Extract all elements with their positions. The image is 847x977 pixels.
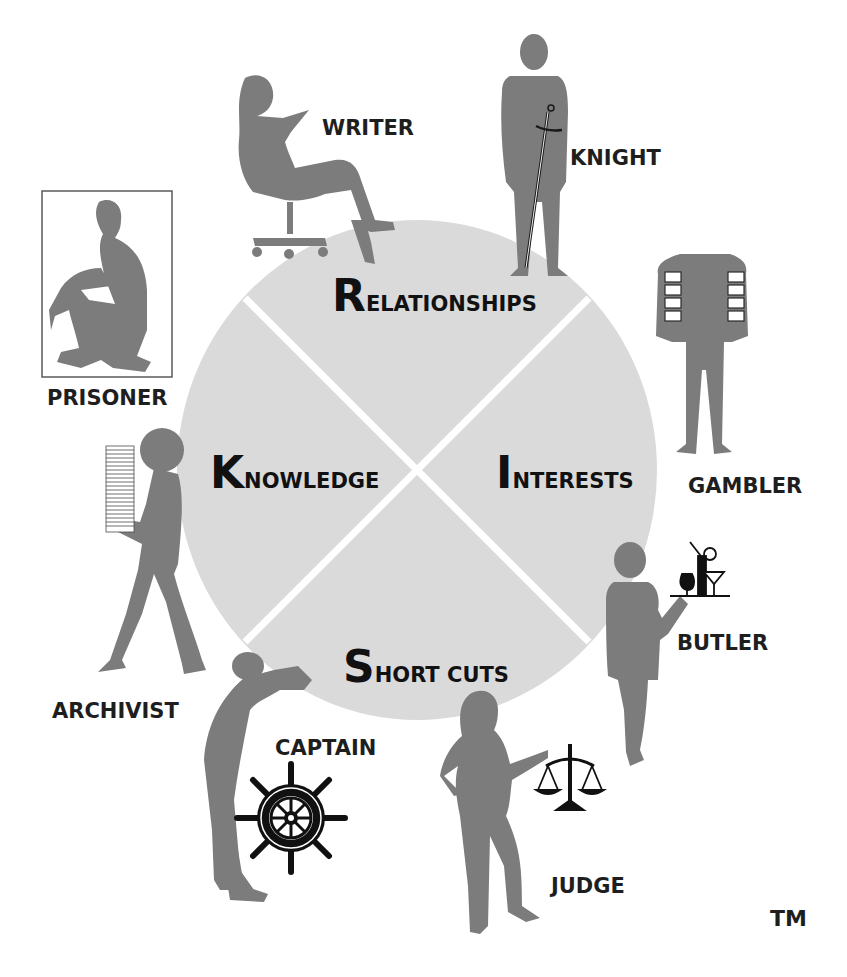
quadrant-knowledge: KNOWLEDGE: [210, 451, 379, 495]
trademark-mark: TM: [770, 908, 807, 930]
figure-label-archivist: ARCHIVIST: [52, 701, 179, 722]
gambler-silhouette-icon: [650, 250, 760, 460]
figure-label-judge: JUDGE: [551, 876, 625, 897]
ship-wheel-icon: [237, 764, 345, 872]
archivist-silhouette-icon: [82, 424, 222, 684]
figure-label-writer: WRITER: [322, 118, 414, 139]
figure-label-captain: CAPTAIN: [275, 738, 376, 759]
quadrant-relationships: RELATIONSHIPS: [332, 274, 537, 318]
captain-silhouette-icon: [204, 650, 364, 910]
diagram-canvas: RELATIONSHIPS KNOWLEDGE INTERESTS SHORT …: [0, 0, 847, 977]
figure-label-gambler: GAMBLER: [688, 476, 802, 497]
quadrant-short-cuts: SHORT CUTS: [343, 645, 509, 689]
figure-label-prisoner: PRISONER: [47, 388, 167, 409]
writer-silhouette-icon: [225, 70, 405, 270]
figure-label-knight: KNIGHT: [570, 148, 661, 169]
knight-silhouette-icon: [490, 32, 580, 280]
prisoner-silhouette-icon: [41, 190, 173, 378]
judge-silhouette-icon: [440, 686, 620, 946]
figure-label-butler: BUTLER: [677, 633, 768, 654]
quadrant-interests: INTERESTS: [496, 451, 634, 495]
